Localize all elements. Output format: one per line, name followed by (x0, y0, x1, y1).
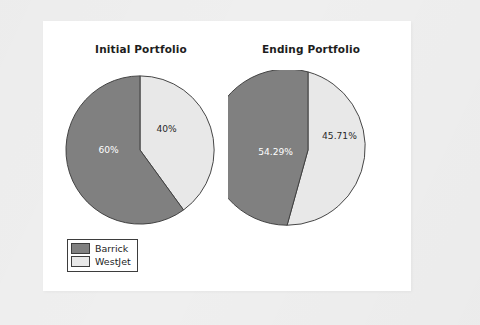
legend-item-barrick[interactable]: Barrick (71, 242, 131, 255)
pie-label-westjet-initial: 40% (156, 124, 177, 134)
legend-label-barrick: Barrick (95, 243, 128, 254)
pie-chart-initial: 40% 60% (64, 74, 216, 226)
chart-title-ending: Ending Portfolio (232, 43, 390, 55)
pie-chart-ending: 45.71% 54.29% (228, 70, 388, 230)
pie-label-barrick-initial: 60% (99, 145, 120, 155)
legend-swatch-barrick-icon (71, 243, 90, 254)
figure-page: Initial Portfolio Ending Portfolio 40% 6… (0, 0, 480, 325)
chart-title-initial: Initial Portfolio (62, 43, 220, 55)
legend-swatch-westjet-icon (71, 256, 90, 267)
pie-label-barrick-ending: 54.29% (258, 147, 293, 157)
legend-item-westjet[interactable]: WestJet (71, 255, 131, 268)
chart-legend: Barrick WestJet (67, 239, 138, 272)
pie-label-westjet-ending: 45.71% (322, 131, 357, 141)
legend-label-westjet: WestJet (95, 256, 131, 267)
